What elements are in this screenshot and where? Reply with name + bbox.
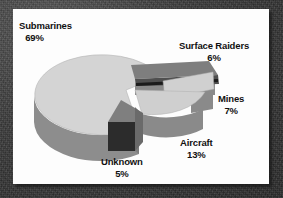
unknown-front-face (108, 122, 135, 151)
slice-label-unknown: Unknown 5% (101, 156, 143, 179)
slice-label-aircraft-name: Aircraft (180, 137, 213, 149)
slice-label-unknown-value: 5% (101, 168, 143, 180)
slice-label-submarines-name: Submarines (19, 20, 72, 32)
chart-panel: Submarines 69% Surface Raiders 6% Mines … (13, 9, 269, 184)
pie-slice-aircraft[interactable] (135, 90, 205, 137)
slice-label-unknown-name: Unknown (101, 156, 143, 168)
slice-label-submarines: Submarines 69% (19, 20, 72, 43)
slice-label-surface-raiders-value: 6% (179, 52, 249, 64)
unknown-side-wall (135, 108, 143, 151)
slice-label-surface-raiders-name: Surface Raiders (179, 40, 249, 52)
slice-label-mines-value: 7% (218, 105, 244, 117)
pie-chart: Submarines 69% Surface Raiders 6% Mines … (13, 9, 269, 184)
slice-label-aircraft: Aircraft 13% (180, 137, 213, 160)
screenshot-root: Submarines 69% Surface Raiders 6% Mines … (0, 0, 283, 198)
slice-label-surface-raiders: Surface Raiders 6% (179, 40, 249, 63)
slice-label-submarines-value: 69% (19, 32, 72, 44)
slice-label-mines-name: Mines (218, 93, 244, 105)
slice-label-mines: Mines 7% (218, 93, 244, 116)
slice-label-aircraft-value: 13% (180, 149, 213, 161)
